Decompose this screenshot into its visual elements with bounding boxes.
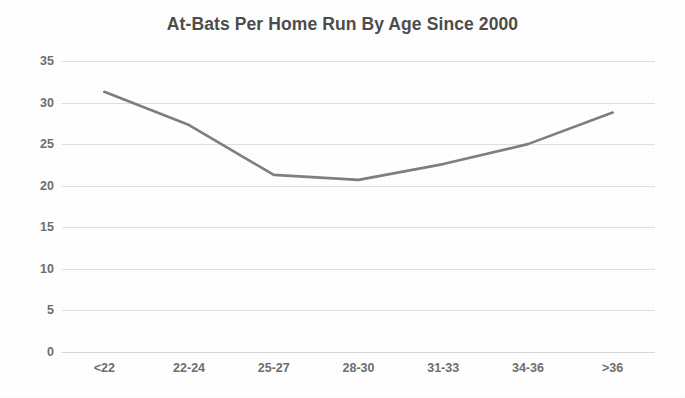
line-path-at-bats-per-home-run bbox=[104, 92, 612, 180]
x-axis: <2222-2425-2728-3031-3334-36>36 bbox=[62, 361, 655, 385]
y-tick-label-35: 35 bbox=[24, 54, 54, 68]
x-tick-label-4: 31-33 bbox=[427, 361, 459, 375]
x-tick-label-6: >36 bbox=[602, 361, 623, 375]
x-tick-label-2: 25-27 bbox=[258, 361, 290, 375]
gridline-0 bbox=[62, 352, 655, 353]
y-tick-label-5: 5 bbox=[24, 303, 54, 317]
x-tick-label-1: 22-24 bbox=[173, 361, 205, 375]
x-tick-label-3: 28-30 bbox=[343, 361, 375, 375]
chart-title: At-Bats Per Home Run By Age Since 2000 bbox=[0, 14, 685, 35]
chart-container: At-Bats Per Home Run By Age Since 2000 0… bbox=[0, 0, 685, 398]
data-series-line bbox=[62, 61, 655, 352]
y-tick-label-25: 25 bbox=[24, 137, 54, 151]
y-axis: 05101520253035 bbox=[18, 61, 54, 352]
y-tick-label-0: 0 bbox=[24, 345, 54, 359]
y-tick-label-15: 15 bbox=[24, 220, 54, 234]
y-tick-label-20: 20 bbox=[24, 179, 54, 193]
x-tick-label-0: <22 bbox=[94, 361, 115, 375]
x-tick-label-5: 34-36 bbox=[512, 361, 544, 375]
y-tick-label-10: 10 bbox=[24, 262, 54, 276]
y-tick-label-30: 30 bbox=[24, 96, 54, 110]
